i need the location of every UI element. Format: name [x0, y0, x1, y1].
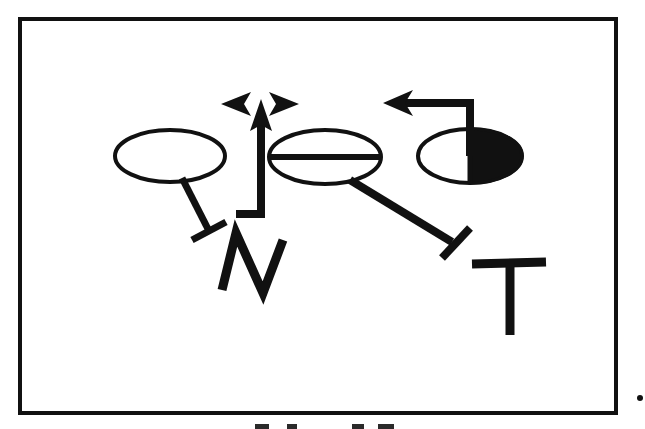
left-ellipse-node[interactable] — [115, 130, 225, 182]
stray-dot — [637, 395, 643, 401]
diagram-canvas — [0, 0, 645, 429]
middle-ellipse-node[interactable] — [269, 130, 381, 184]
caption-partial-clipped — [255, 424, 394, 429]
left-ellipse-shape — [115, 130, 225, 182]
outer-border — [20, 19, 616, 413]
figure-container: node-left-ellipse node-middle-ellipse no… — [0, 0, 645, 429]
